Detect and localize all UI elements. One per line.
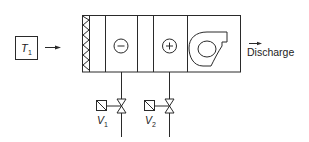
sensor-subscript: 1 [28, 49, 32, 56]
cooling-coil [114, 39, 128, 53]
actuator-icon [145, 101, 155, 111]
ahu-diagram: T 1 [0, 0, 309, 142]
inlet-arrow-icon [45, 46, 61, 50]
discharge-outlet: Discharge [247, 42, 294, 58]
sensor-t1: T 1 [16, 37, 38, 60]
filter-zigzag-icon [83, 16, 90, 73]
discharge-label: Discharge [247, 46, 294, 58]
valve-v1: V 1 [97, 72, 127, 137]
unit-casing [83, 16, 241, 73]
valve-v2: V 2 [145, 72, 175, 137]
centrifugal-fan-icon [189, 32, 227, 66]
heating-coil [163, 39, 177, 53]
air-handling-unit [83, 16, 241, 73]
actuator-icon [97, 101, 107, 111]
valve-subscript: 2 [152, 121, 156, 128]
valve-subscript: 1 [104, 121, 108, 128]
